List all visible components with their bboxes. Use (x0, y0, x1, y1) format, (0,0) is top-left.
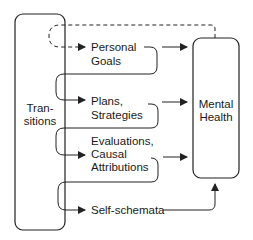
transitions-line2: sitions (15, 115, 65, 128)
evaluations-label: Evaluations, Causal Attributions (91, 135, 154, 174)
mental-health-line1: Mental (193, 98, 239, 111)
self-schemata-line1: Self-schemata (91, 204, 165, 217)
self-schemata-label: Self-schemata (91, 204, 165, 217)
evaluations-line3: Attributions (91, 161, 154, 174)
mental-health-line2: Health (193, 111, 239, 124)
arrow-selfschemata-to-health (163, 184, 215, 210)
plans-line2: Strategies (91, 109, 143, 122)
plans-label: Plans, Strategies (91, 95, 143, 122)
personal-goals-label: Personal Goals (91, 41, 136, 68)
evaluations-line1: Evaluations, (91, 135, 154, 148)
personal-goals-line1: Personal (91, 41, 136, 54)
mental-health-label: Mental Health (193, 98, 239, 124)
plans-line1: Plans, (91, 95, 143, 108)
evaluations-line2: Causal (91, 148, 154, 161)
transitions-label: Tran- sitions (15, 102, 65, 128)
personal-goals-line2: Goals (91, 55, 136, 68)
transitions-line1: Tran- (15, 102, 65, 115)
